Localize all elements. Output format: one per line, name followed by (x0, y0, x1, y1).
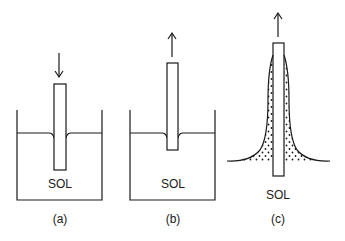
substrate-b (167, 63, 178, 150)
sol-film-c (227, 55, 330, 161)
sol-label-b: SOL (161, 177, 185, 191)
sol-label-c: SOL (266, 188, 290, 202)
panel-b (130, 33, 215, 200)
caption-b: (b) (166, 212, 181, 226)
film-outline-c (227, 55, 330, 161)
caption-a: (a) (53, 212, 68, 226)
substrate-a (54, 84, 66, 170)
caption-c: (c) (271, 212, 285, 226)
panel-c (227, 13, 330, 176)
arrow-down-icon (55, 53, 63, 77)
dip-coating-diagram: SOL (a) SOL (b) SOL (c) (0, 0, 345, 241)
arrow-up-icon (168, 33, 176, 57)
sol-label-a: SOL (48, 177, 72, 191)
arrow-up-icon (274, 13, 282, 37)
substrate-c (273, 43, 284, 176)
